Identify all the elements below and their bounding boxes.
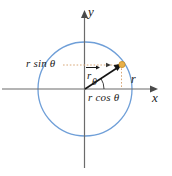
vector-overarrow-head-icon [96,66,100,70]
radius-label: r [131,73,136,85]
diagram-canvas [0,0,172,176]
point-on-circle [119,61,125,67]
x-axis-label: x [152,91,158,104]
position-vector-label: r [87,70,91,81]
y-axis-label: y [88,5,94,18]
r-cos-theta-label: r cos θ [88,92,119,103]
rsin-arrowhead-icon [106,63,111,67]
polar-coordinate-diagram: y x r sin θ r cos θ r θ r [0,0,172,176]
theta-arc [101,79,104,89]
r-sin-theta-label: r sin θ [26,58,55,69]
y-axis-arrowhead [81,10,88,18]
theta-angle-label: θ [92,77,97,87]
